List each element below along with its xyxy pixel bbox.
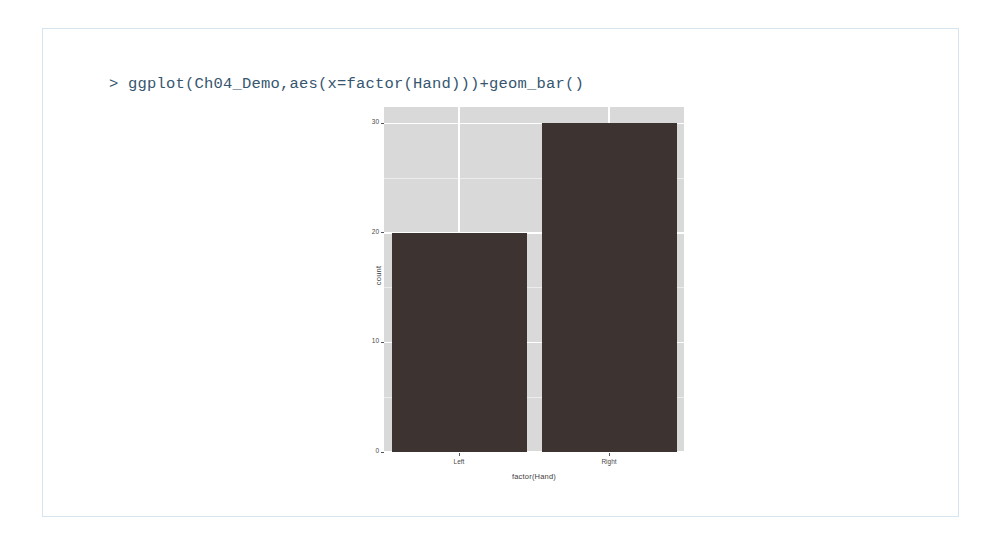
ggplot-bar-chart: count 0102030 factor(Hand) LeftRight [301, 101, 701, 501]
x-axis-title: factor(Hand) [384, 472, 684, 481]
y-tick-mark [381, 123, 384, 124]
y-tick-label: 10 [357, 338, 379, 345]
y-tick-mark [381, 452, 384, 453]
console-prompt-symbol: > [109, 75, 128, 93]
y-tick-label: 30 [357, 119, 379, 126]
r-console-card: > ggplot(Ch04_Demo,aes(x=factor(Hand)))+… [42, 28, 959, 517]
x-tick-label-right: Right [569, 458, 649, 465]
y-tick-mark [381, 342, 384, 343]
x-tick-label-left: Left [419, 458, 499, 465]
y-tick-label: 0 [357, 448, 379, 455]
chart-panel [384, 107, 684, 452]
bar-right [542, 123, 677, 452]
console-command-text: ggplot(Ch04_Demo,aes(x=factor(Hand)))+ge… [128, 75, 584, 93]
x-tick-mark [459, 453, 460, 456]
x-tick-mark [609, 453, 610, 456]
y-tick-label: 20 [357, 229, 379, 236]
y-tick-mark [381, 232, 384, 233]
y-axis-tick-labels: 0102030 [355, 101, 379, 501]
bar-left [392, 233, 527, 452]
plot-output-region: count 0102030 factor(Hand) LeftRight [301, 101, 701, 501]
